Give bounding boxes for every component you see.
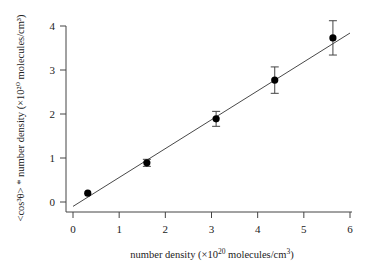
data-point xyxy=(271,77,278,84)
x-tick-label: 6 xyxy=(347,223,353,235)
x-tick-label: 2 xyxy=(163,223,169,235)
scatter-chart: 012340123456number density (×1020 molecu… xyxy=(0,0,368,271)
x-tick-label: 5 xyxy=(301,223,307,235)
y-tick-label: 1 xyxy=(50,152,56,164)
y-tick-label: 3 xyxy=(50,64,56,76)
x-tick-label: 0 xyxy=(70,223,76,235)
data-point xyxy=(143,159,150,166)
y-axis-label: <cos³θ> * number density (×10²⁰ molecule… xyxy=(15,14,27,222)
data-point xyxy=(213,115,220,122)
x-tick-label: 3 xyxy=(209,223,215,235)
data-point xyxy=(329,34,336,41)
y-tick-label: 2 xyxy=(50,108,56,120)
y-tick-label: 0 xyxy=(50,196,56,208)
data-point xyxy=(84,190,91,197)
chart-canvas: 012340123456number density (×1020 molecu… xyxy=(0,0,368,271)
fit-line xyxy=(73,33,350,206)
x-tick-label: 1 xyxy=(116,223,122,235)
y-tick-label: 4 xyxy=(50,20,56,32)
x-axis-label: number density (×1020 molecules/cm3) xyxy=(130,247,294,261)
x-tick-label: 4 xyxy=(255,223,261,235)
